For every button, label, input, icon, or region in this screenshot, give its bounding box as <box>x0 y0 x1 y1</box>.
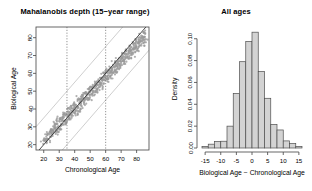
svg-text:15: 15 <box>295 157 302 164</box>
svg-text:30: 30 <box>27 123 34 130</box>
svg-text:70: 70 <box>118 155 125 162</box>
svg-text:Density: Density <box>171 77 179 100</box>
svg-text:0.02: 0.02 <box>187 120 194 133</box>
svg-text:10: 10 <box>280 157 287 164</box>
svg-text:0.04: 0.04 <box>187 98 194 111</box>
svg-text:0.00: 0.00 <box>187 141 194 154</box>
svg-text:30: 30 <box>56 155 63 162</box>
scatter-panel: Mahalanobis depth (15−year range) 203040… <box>0 0 170 191</box>
svg-text:50: 50 <box>27 87 34 94</box>
svg-text:40: 40 <box>71 155 78 162</box>
svg-text:70: 70 <box>27 52 34 59</box>
svg-text:0.08: 0.08 <box>187 54 194 67</box>
svg-text:Biological Age − Chronological: Biological Age − Chronological Age <box>199 169 305 177</box>
histogram-panel: All ages -15-10-50510150.000.020.040.060… <box>160 0 312 191</box>
svg-text:0.06: 0.06 <box>187 76 194 89</box>
svg-text:0: 0 <box>250 157 254 164</box>
figure-canvas: Mahalanobis depth (15−year range) 203040… <box>0 0 312 191</box>
svg-text:80: 80 <box>133 155 140 162</box>
svg-text:60: 60 <box>102 155 109 162</box>
histogram-plot: -15-10-50510150.000.020.040.060.080.10Bi… <box>160 0 312 191</box>
scatter-plot: 2030405060708020304050607080Chronologica… <box>0 0 170 191</box>
svg-text:-10: -10 <box>216 157 226 164</box>
svg-text:80: 80 <box>27 34 34 41</box>
svg-text:5: 5 <box>266 157 270 164</box>
svg-text:Biological Age: Biological Age <box>10 67 18 110</box>
svg-text:Chronological Age: Chronological Age <box>65 166 120 174</box>
svg-text:50: 50 <box>87 155 94 162</box>
svg-text:-5: -5 <box>234 157 240 164</box>
svg-text:40: 40 <box>27 105 34 112</box>
svg-text:-15: -15 <box>201 157 211 164</box>
svg-text:0.10: 0.10 <box>187 32 194 45</box>
svg-text:60: 60 <box>27 69 34 76</box>
svg-text:20: 20 <box>40 155 47 162</box>
svg-text:20: 20 <box>27 141 34 148</box>
